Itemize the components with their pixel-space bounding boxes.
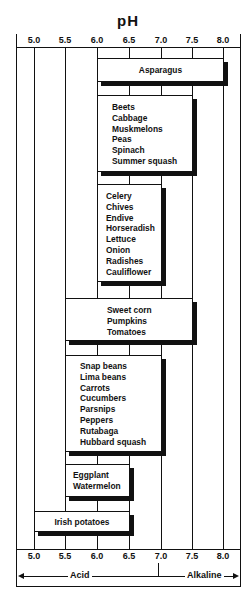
frame-right (240, 34, 241, 587)
crop-label: Horseradish (106, 223, 155, 234)
crop-label: Pumpkins (107, 316, 152, 327)
acid-label: Acid (68, 570, 92, 580)
crop-label: Sweet corn (107, 305, 152, 316)
crop-label: Beets (112, 102, 177, 113)
range-bar-beets-group: Beets Cabbage Muskmelons Peas Spinach Su… (97, 95, 193, 172)
bottom-tick-label: 7.5 (177, 551, 207, 561)
crop-label: Parsnips (80, 404, 146, 415)
crop-label: Cabbage (112, 113, 177, 124)
crop-label: Endive (106, 213, 155, 224)
crop-label: Cucumbers (80, 393, 146, 404)
crop-label: Muskmelons (112, 124, 177, 135)
range-bar-eggplant-group: Eggplant Watermelon (65, 464, 130, 497)
crop-label: Radishes (106, 256, 155, 267)
bottom-tick-label: 7.0 (146, 551, 176, 561)
top-tick-label: 7.0 (146, 35, 176, 45)
top-tick-label: 5.0 (19, 35, 49, 45)
top-tick-label: 6.5 (114, 35, 144, 45)
bottom-tick-label: 8.0 (208, 551, 238, 561)
top-tick-label: 7.5 (177, 35, 207, 45)
crop-label: Lettuce (106, 234, 155, 245)
alkaline-label: Alkaline (185, 570, 224, 580)
crop-label: Celery (106, 191, 155, 202)
crop-label: Eggplant (73, 470, 121, 481)
crop-label: Asparagus (98, 65, 223, 76)
top-tick-label: 5.5 (50, 35, 80, 45)
crop-label: Onion (106, 245, 155, 256)
crop-label: Lima beans (80, 372, 146, 383)
crop-label: Cauliflower (106, 267, 155, 278)
bottom-tick-label: 5.5 (50, 551, 80, 561)
crop-label: Watermelon (73, 481, 121, 492)
range-bar-snap-beans-group: Snap beans Lima beans Carrots Cucumbers … (65, 355, 162, 452)
frame-left (16, 34, 17, 587)
crop-label: Spinach (112, 145, 177, 156)
range-bar-sweet-corn-group: Sweet corn Pumpkins Tomatoes (65, 298, 193, 341)
bottom-tick-label: 5.0 (19, 551, 49, 561)
range-bar-asparagus: Asparagus (97, 58, 224, 82)
gridline-5-0 (34, 47, 35, 549)
crop-label: Hubbard squash (80, 437, 146, 448)
crop-label: Irish potatoes (35, 517, 129, 528)
left-arrowhead-icon (18, 573, 24, 579)
chart-title: pH (0, 12, 252, 29)
crop-label: Carrots (80, 383, 146, 394)
crop-label: Chives (106, 202, 155, 213)
range-bar-irish-potatoes: Irish potatoes (34, 511, 130, 532)
crop-label: Peas (112, 134, 177, 145)
neutral-divider (158, 563, 159, 576)
range-bar-celery-group: Celery Chives Endive Horseradish Lettuce… (97, 184, 162, 282)
bottom-axis-line (16, 549, 241, 550)
crop-label: Peppers (80, 415, 146, 426)
gridline-8-0 (223, 47, 224, 549)
right-arrowhead-icon (233, 573, 239, 579)
top-tick-label: 6.0 (82, 35, 112, 45)
crop-label: Snap beans (80, 361, 146, 372)
crop-label: Summer squash (112, 156, 177, 167)
crop-label: Tomatoes (107, 327, 152, 338)
crop-label: Rutabaga (80, 426, 146, 437)
bottom-tick-label: 6.0 (82, 551, 112, 561)
bottom-tick-label: 6.5 (114, 551, 144, 561)
top-tick-label: 8.0 (208, 35, 238, 45)
frame-bottom (16, 586, 241, 587)
